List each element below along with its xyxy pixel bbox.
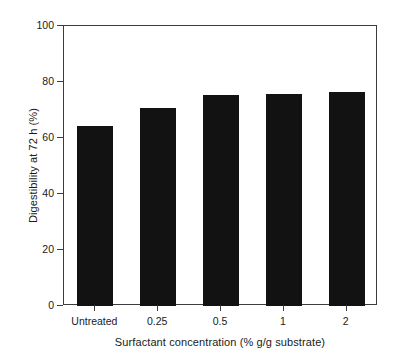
- y-axis-tick: [57, 305, 63, 306]
- y-axis-tick: [57, 25, 63, 26]
- bar[interactable]: [203, 95, 239, 306]
- bar-chart-figure: Digestibility at 72 h (%) Surfactant con…: [0, 0, 394, 362]
- x-axis-tick: [157, 305, 158, 311]
- bar[interactable]: [329, 92, 365, 306]
- y-axis-tick-label: 40: [14, 188, 54, 198]
- y-axis-tick-label: 100: [14, 20, 54, 30]
- x-axis-title: Surfactant concentration (% g/g substrat…: [63, 336, 377, 348]
- x-axis-tick: [346, 305, 347, 311]
- y-axis-tick-label: 20: [14, 244, 54, 254]
- y-axis-tick-label: 60: [14, 132, 54, 142]
- bar[interactable]: [77, 126, 113, 306]
- x-axis-tick: [220, 305, 221, 311]
- x-axis-tick-label: 2: [306, 314, 386, 328]
- y-axis-tick: [57, 193, 63, 194]
- plot-area: [63, 25, 377, 305]
- bar[interactable]: [140, 108, 176, 306]
- bar[interactable]: [266, 94, 302, 306]
- y-axis-tick: [57, 249, 63, 250]
- x-axis-tick: [283, 305, 284, 311]
- x-axis-tick: [94, 305, 95, 311]
- y-axis-tick: [57, 81, 63, 82]
- y-axis-title: Digestibility at 72 h (%): [22, 26, 44, 305]
- y-axis-tick-label: 0: [14, 300, 54, 310]
- bars-layer: [64, 26, 378, 306]
- y-axis-tick: [57, 137, 63, 138]
- y-axis-tick-label: 80: [14, 76, 54, 86]
